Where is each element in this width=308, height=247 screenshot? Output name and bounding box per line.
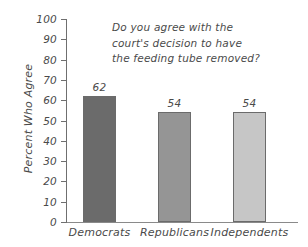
y-tick — [61, 181, 67, 182]
y-tick — [61, 161, 67, 162]
x-axis-line — [66, 222, 298, 223]
y-axis-label: Percent Who Agree — [22, 39, 35, 199]
y-tick-label: 90 — [43, 34, 57, 44]
y-tick — [61, 80, 67, 81]
y-tick-label: 20 — [43, 176, 57, 186]
bar-value-label: 62 — [75, 81, 125, 93]
bar[interactable] — [158, 112, 191, 222]
bar[interactable] — [233, 112, 266, 222]
x-category-label: Independents — [200, 226, 300, 239]
y-tick-label: 80 — [43, 55, 57, 65]
y-tick-label: 70 — [43, 75, 57, 85]
y-tick-label: 100 — [36, 14, 57, 24]
bar-value-label: 54 — [225, 97, 275, 109]
y-tick-label: 10 — [43, 197, 57, 207]
y-tick-label: 40 — [43, 136, 57, 146]
y-tick — [61, 100, 67, 101]
y-tick-label: 30 — [43, 156, 57, 166]
y-tick-label: 50 — [43, 116, 57, 126]
y-tick — [61, 60, 67, 61]
y-tick — [61, 222, 67, 223]
chart-title: Do you agree with the court's decision t… — [112, 20, 302, 67]
y-tick — [61, 19, 67, 20]
bar[interactable] — [83, 96, 116, 222]
bar-chart: Percent Who Agree 1009080706050403020100… — [0, 0, 308, 247]
y-tick-label: 60 — [43, 95, 57, 105]
y-tick — [61, 39, 67, 40]
y-tick — [61, 141, 67, 142]
bar-value-label: 54 — [150, 97, 200, 109]
y-tick — [61, 121, 67, 122]
y-tick — [61, 202, 67, 203]
